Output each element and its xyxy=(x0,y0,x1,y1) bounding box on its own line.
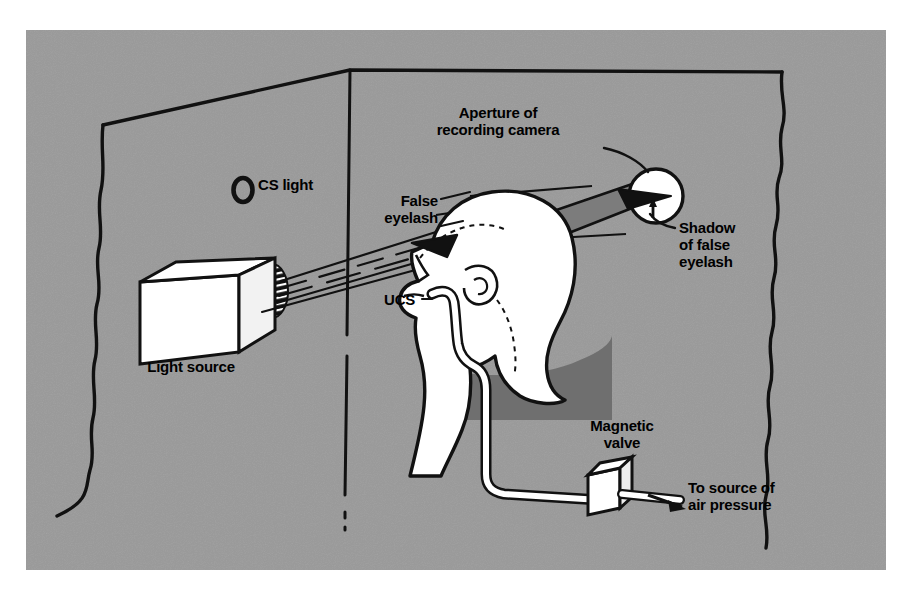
label-cs-light: CS light xyxy=(258,176,313,193)
label-to-source-of-air-pressure: To source of air pressure xyxy=(688,479,838,513)
label-magnetic-valve: Magnetic valve xyxy=(574,417,670,451)
diagram-canvas: Aperture of recording camera CS light Fa… xyxy=(0,0,906,597)
label-light-source: Light source xyxy=(121,358,261,375)
label-false-eyelash: False eyelash xyxy=(355,192,438,226)
label-aperture-of-recording-camera: Aperture of recording camera xyxy=(393,104,603,138)
label-ucs: UCS xyxy=(384,291,415,308)
label-shadow-of-false-eyelash: Shadow of false eyelash xyxy=(679,219,799,270)
